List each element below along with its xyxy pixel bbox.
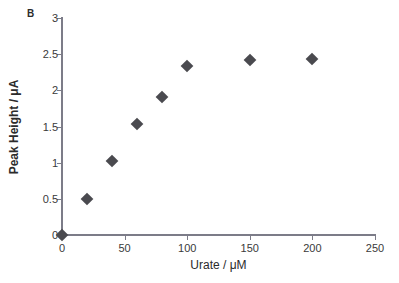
x-axis-title: Urate / μM — [62, 258, 375, 272]
x-axis-tick — [250, 235, 251, 240]
y-axis-title: Peak Height / μA — [3, 18, 25, 235]
data-point-marker — [156, 90, 169, 103]
x-axis-tick-label: 50 — [118, 242, 130, 254]
x-axis-tick-label: 200 — [303, 242, 321, 254]
y-axis-tick-label: 3 — [52, 12, 58, 24]
figure-panel-b: B Peak Height / μA 00.511.522.5305010015… — [0, 0, 399, 283]
y-axis-tick-label: 2 — [52, 84, 58, 96]
x-axis-tick — [187, 235, 188, 240]
x-axis-tick — [125, 235, 126, 240]
x-axis-tick-label: 0 — [59, 242, 65, 254]
data-point-marker — [106, 155, 119, 168]
data-point-marker — [306, 52, 319, 65]
y-axis-tick-label: 0.5 — [43, 193, 58, 205]
data-point-marker — [81, 192, 94, 205]
y-axis-tick-label: 1 — [52, 157, 58, 169]
x-axis-tick-label: 100 — [178, 242, 196, 254]
data-point-marker — [131, 118, 144, 131]
x-axis-tick-label: 250 — [366, 242, 384, 254]
x-axis-tick — [375, 235, 376, 240]
data-point-marker — [243, 54, 256, 67]
y-axis-title-text: Peak Height / μA — [7, 79, 21, 174]
plot-area: 00.511.522.53050100150200250 — [62, 18, 375, 235]
x-axis-tick-label: 150 — [241, 242, 259, 254]
y-axis-tick-label: 1.5 — [43, 121, 58, 133]
data-point-marker — [181, 60, 194, 73]
x-axis-tick — [312, 235, 313, 240]
panel-label: B — [27, 8, 34, 20]
y-axis-tick-label: 2.5 — [43, 48, 58, 60]
